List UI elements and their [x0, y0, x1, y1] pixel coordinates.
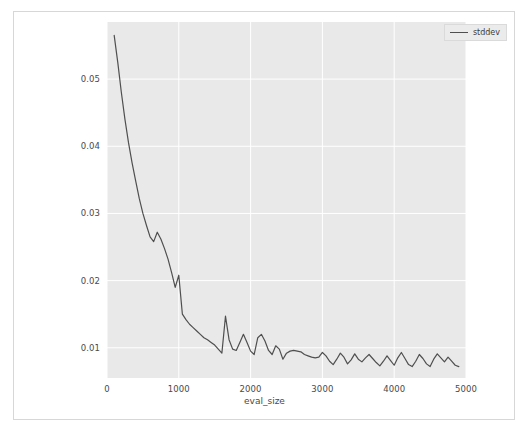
y-tick-label: 0.03	[58, 208, 100, 218]
y-tick-label: 0.01	[58, 343, 100, 353]
legend-line-swatch	[450, 32, 468, 33]
x-tick-label: 2000	[226, 384, 276, 394]
x-tick-label: 1000	[154, 384, 204, 394]
x-tick-label: 3000	[297, 384, 347, 394]
plot-background	[107, 22, 466, 378]
y-tick-label: 0.02	[58, 276, 100, 286]
x-axis-label: eval_size	[0, 396, 529, 406]
x-tick-label: 5000	[441, 384, 491, 394]
legend-label-stddev: stddev	[473, 28, 500, 37]
y-tick-label: 0.05	[58, 74, 100, 84]
x-tick-label: 0	[82, 384, 132, 394]
x-tick-label: 4000	[369, 384, 419, 394]
y-tick-label: 0.04	[58, 141, 100, 151]
chart-legend: stddev	[444, 24, 507, 41]
